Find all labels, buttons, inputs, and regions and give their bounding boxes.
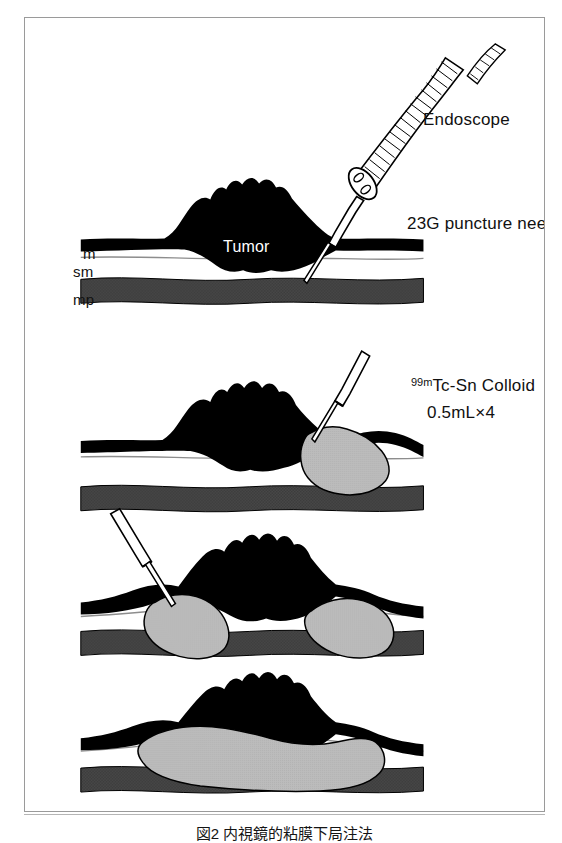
panel3-needle-sheath xyxy=(111,509,152,567)
panel-3-second-injection-left xyxy=(81,509,424,659)
colloid-dose-label: 0.5mL×4 xyxy=(427,403,495,423)
layer-label-sm: sm xyxy=(73,263,93,280)
colloid-isotope-prefix: 99m xyxy=(411,376,432,388)
figure-frame: Endoscope 23G puncture needle Tumor m sm… xyxy=(24,17,545,812)
endoscope-label: Endoscope xyxy=(423,110,510,130)
figure-caption: 図2 内視鏡的粘膜下局注法 xyxy=(24,822,545,843)
layer-label-mp: mp xyxy=(73,291,94,308)
colloid-label: 99mTc-Sn Colloid xyxy=(411,376,535,396)
panel-4-coalesced-depot xyxy=(81,672,424,793)
caption-divider xyxy=(24,814,545,815)
panel1-muscularis-propria xyxy=(81,278,424,305)
colloid-name: Tc-Sn Colloid xyxy=(432,376,535,395)
tumor-label: Tumor xyxy=(223,238,270,256)
layer-label-m: m xyxy=(83,245,96,262)
panel-2-first-injection-right xyxy=(81,351,424,512)
panel2-needle-sheath xyxy=(335,351,370,406)
puncture-needle-label: 23G puncture needle xyxy=(407,214,545,234)
panel-1-needle-insertion xyxy=(81,44,505,304)
